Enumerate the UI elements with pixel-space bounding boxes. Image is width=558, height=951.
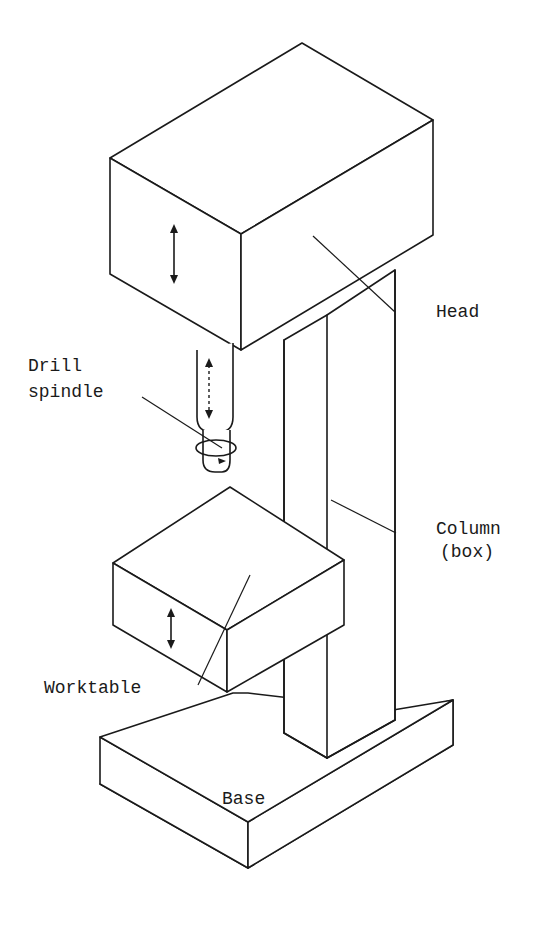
column-label-line1: Column <box>436 518 501 540</box>
drill-spindle-label-line1: Drill <box>28 355 82 377</box>
drill-spindle <box>196 343 236 472</box>
head-label: Head <box>436 301 479 323</box>
column-label-line2: (box) <box>440 541 494 563</box>
column-box <box>284 270 395 758</box>
base-label: Base <box>222 788 265 810</box>
worktable-label: Worktable <box>44 677 141 699</box>
drill-spindle-label-line2: spindle <box>28 381 104 403</box>
base-block <box>100 693 453 868</box>
drilling-machine-diagram <box>0 0 558 951</box>
